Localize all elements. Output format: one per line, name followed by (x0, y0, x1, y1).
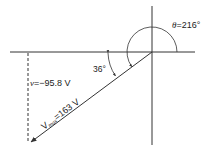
instant-voltage-label: v=−95.8 V (30, 78, 71, 88)
angle-36-arc (108, 53, 116, 76)
theta-label: θ=216° (172, 20, 201, 30)
vmax-label: Vmax=163 V (39, 97, 81, 132)
phasor-diagram: θ=216° 36° v=−95.8 V Vmax=163 V (0, 0, 206, 152)
svg-text:Vmax=163 V: Vmax=163 V (39, 97, 81, 132)
angle-36-label: 36° (93, 64, 106, 74)
